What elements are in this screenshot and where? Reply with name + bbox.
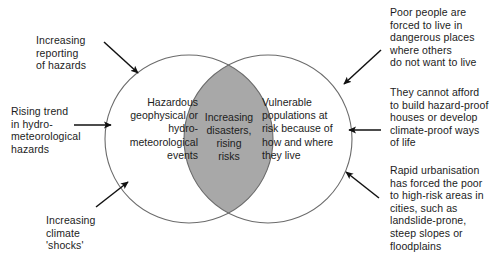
- venn-diagram-figure: Hazardous geophysical or hydro- meteorol…: [0, 0, 493, 260]
- overlap-label: Increasing disasters, rising risks: [199, 111, 259, 163]
- annotation-cannot-afford-hazard-proof: They cannot afford to build hazard-proof…: [390, 86, 493, 149]
- right-set-label: Vulnerable populations at risk because o…: [262, 96, 348, 162]
- annotation-poor-people-dangerous-places: Poor people are forced to live in danger…: [390, 6, 493, 69]
- annotation-climate-shocks: Increasing climate 'shocks': [46, 214, 146, 252]
- left-set-label: Hazardous geophysical or hydro- meteorol…: [118, 96, 198, 162]
- arrow-bottom-right: [346, 172, 379, 198]
- annotation-increasing-reporting: Increasing reporting of hazards: [36, 34, 132, 72]
- annotation-rapid-urbanisation: Rapid urbanisation has forced the poor t…: [390, 164, 493, 252]
- arrow-top-right: [344, 50, 381, 84]
- arrow-bottom-left: [96, 182, 128, 207]
- annotation-rising-trend: Rising trend in hydro- meteorological ha…: [11, 105, 107, 155]
- figure-caption: [0, 252, 493, 260]
